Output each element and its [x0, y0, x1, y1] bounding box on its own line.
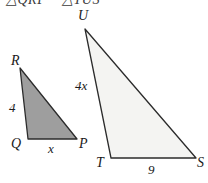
side-label-UT: 4x	[75, 79, 87, 92]
large-triangle-shape	[85, 29, 196, 158]
side-label-RQ: 4	[9, 101, 16, 114]
vertex-label-P: P	[79, 137, 88, 151]
vertex-label-Q: Q	[11, 137, 21, 151]
vertex-label-S: S	[197, 156, 204, 170]
vertex-label-U: U	[78, 9, 88, 23]
side-label-QP: x	[48, 142, 54, 155]
vertex-label-R: R	[11, 54, 20, 68]
triangles-svg	[0, 0, 208, 183]
small-triangle-shape	[20, 68, 77, 139]
geometry-figure: △QRP ~ △TUS R Q P 4 x U T S 4x 9	[0, 0, 208, 183]
side-label-TS: 9	[148, 163, 155, 176]
vertex-label-T: T	[96, 156, 104, 170]
